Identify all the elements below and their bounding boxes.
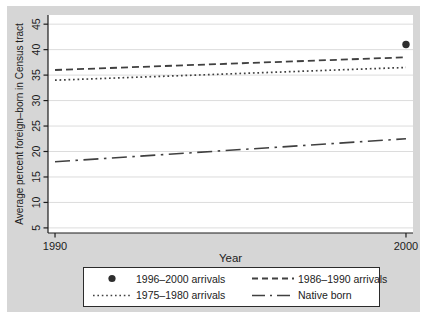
y-axis-title: Average percent foreign–born in Census t… xyxy=(14,23,25,225)
y-tick-label: 35 xyxy=(30,69,42,81)
legend-label-native-born: Native born xyxy=(298,289,387,301)
y-tick-label: 5 xyxy=(30,225,42,231)
y-tick-label: 40 xyxy=(30,44,42,56)
y-tick-label: 25 xyxy=(30,120,42,132)
legend-label-1975-1980: 1975–1980 arrivals xyxy=(136,289,248,301)
y-tick-label: 30 xyxy=(30,95,42,107)
figure-page: 5101520253035404519902000 Average percen… xyxy=(0,0,428,326)
y-tick-label: 10 xyxy=(30,196,42,208)
x-tick-label: 1990 xyxy=(43,240,67,252)
legend-label-1986-1990: 1986–1990 arrivals xyxy=(298,273,387,285)
series-marker-1996-2000-arrivals xyxy=(402,41,409,48)
y-tick-label: 20 xyxy=(30,146,42,158)
legend-label-1996-2000: 1996–2000 arrivals xyxy=(136,273,248,285)
y-tick-label: 15 xyxy=(30,171,42,183)
x-tick-label: 2000 xyxy=(394,240,418,252)
plot-area xyxy=(48,15,413,233)
legend-sample-dashdot-line-icon xyxy=(250,291,296,300)
y-tick-label: 45 xyxy=(30,18,42,30)
x-axis-title: Year xyxy=(219,252,242,264)
legend-sample-dashed-line-icon xyxy=(250,274,296,283)
legend-sample-dotted-line-icon xyxy=(90,291,134,300)
legend-marker-1996-2000-dot-icon xyxy=(90,274,134,283)
legend: 1996–2000 arrivals 1986–1990 arrivals 19… xyxy=(83,267,380,307)
